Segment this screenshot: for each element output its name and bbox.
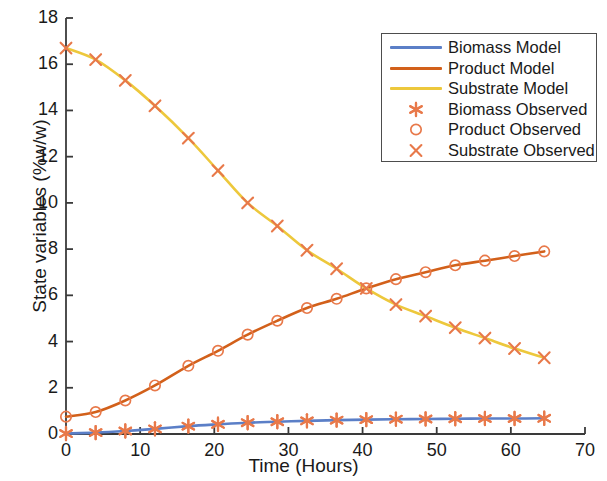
legend-label: Substrate Model: [448, 78, 568, 99]
legend-label: Product Observed: [448, 119, 581, 140]
legend-item: Product Observed: [382, 119, 596, 140]
legend-line-swatch: [390, 37, 442, 58]
legend-marker-swatch: [390, 99, 442, 120]
legend-marker: [410, 102, 421, 115]
y-tick-label: 18: [18, 7, 58, 28]
legend-marker-glyph: [411, 124, 421, 134]
legend-label: Biomass Observed: [448, 99, 587, 120]
legend: Biomass ModelProduct ModelSubstrate Mode…: [381, 33, 597, 162]
legend-marker: [411, 145, 422, 156]
series-biomass-observed: [60, 412, 550, 440]
legend-item: Substrate Observed: [382, 140, 596, 161]
y-tick-label: 2: [18, 377, 58, 398]
legend-line-swatch: [390, 58, 442, 79]
legend-label: Product Model: [448, 58, 554, 79]
legend-item: Biomass Model: [382, 37, 596, 58]
x-axis-label: Time (Hours): [0, 455, 607, 477]
y-tick-label: 16: [18, 53, 58, 74]
y-axis-label: State variables (%w/w): [29, 76, 51, 356]
legend-line-swatch: [390, 78, 442, 99]
legend-label: Substrate Observed: [448, 140, 595, 161]
chart-figure: 024681012141618010203040506070 Time (Hou…: [0, 0, 607, 481]
legend-marker: [411, 124, 421, 134]
legend-marker-swatch: [390, 140, 442, 161]
legend-label: Biomass Model: [448, 37, 561, 58]
y-axis-label-wrapper: State variables (%w/w): [29, 76, 55, 356]
legend-item: Product Model: [382, 58, 596, 79]
legend-item: Substrate Model: [382, 78, 596, 99]
legend-item: Biomass Observed: [382, 99, 596, 120]
legend-marker-swatch: [390, 119, 442, 140]
